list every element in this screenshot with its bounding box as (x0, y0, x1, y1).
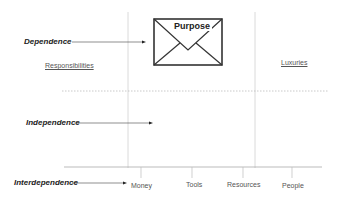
arrow-independence (76, 122, 153, 125)
row-label-dependence: Dependence (24, 37, 72, 46)
envelope-title: Purpose (172, 21, 212, 31)
quadrant-label-luxuries: Luxuries (281, 59, 307, 66)
row-label-interdependence: Interdependence (14, 178, 78, 187)
diagram-canvas (0, 0, 337, 202)
axis-label-tools: Tools (186, 181, 202, 188)
quadrant-label-responsibilities: Responsibilities (45, 62, 94, 69)
arrow-interdependence (72, 182, 127, 185)
row-label-independence: Independence (26, 118, 80, 127)
axis-label-resources: Resources (227, 181, 260, 188)
axis-label-people: People (282, 182, 304, 189)
axis-label-money: Money (131, 182, 152, 189)
arrow-dependence (72, 41, 146, 44)
